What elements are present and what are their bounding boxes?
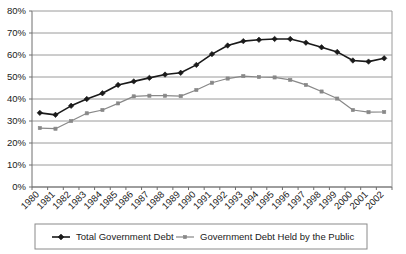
legend-label: Total Government Debt [76, 231, 174, 242]
data-point-marker [38, 126, 41, 129]
x-axis-tick-labels: 1980198119821983198419851986198719881989… [19, 189, 386, 212]
y-axis-tick-label: 80% [7, 5, 27, 16]
data-point-marker [195, 88, 198, 91]
data-point-marker [289, 78, 292, 81]
data-point-marker [132, 95, 135, 98]
data-point-marker [85, 112, 88, 115]
data-point-marker [183, 235, 186, 238]
data-point-marker [273, 76, 276, 79]
chart-canvas: 0%10%20%30%40%50%60%70%80% 1980198119821… [0, 0, 406, 254]
data-point-marker [351, 108, 354, 111]
data-point-marker [320, 90, 323, 93]
y-axis-tick-label: 70% [7, 27, 27, 38]
y-axis-tick-label: 50% [7, 71, 27, 82]
debt-line-chart: 0%10%20%30%40%50%60%70%80% 1980198119821… [0, 0, 406, 254]
x-axis-tick-label: 2002 [363, 189, 386, 212]
data-point-marker [70, 119, 73, 122]
data-point-marker [116, 102, 119, 105]
data-point-marker [58, 234, 64, 240]
legend-item-total-government-debt[interactable]: Total Government Debt [52, 231, 174, 242]
y-axis-tick-label: 60% [7, 49, 27, 60]
data-point-marker [257, 75, 260, 78]
data-point-marker [101, 108, 104, 111]
data-point-marker [163, 94, 166, 97]
legend-item-government-debt-held-by-the-public[interactable]: Government Debt Held by the Public [176, 231, 354, 242]
data-point-marker [179, 95, 182, 98]
y-axis-tick-labels: 0%10%20%30%40%50%60%70%80% [7, 5, 27, 192]
y-axis-tick-label: 40% [7, 93, 27, 104]
data-point-marker [226, 77, 229, 80]
data-point-marker [148, 94, 151, 97]
data-point-marker [242, 75, 245, 78]
data-point-marker [304, 83, 307, 86]
data-point-marker [210, 81, 213, 84]
y-axis-tick-label: 20% [7, 137, 27, 148]
y-axis-tick-label: 30% [7, 115, 27, 126]
data-point-marker [336, 97, 339, 100]
y-axis-tick-label: 10% [7, 159, 27, 170]
data-point-marker [54, 127, 57, 130]
chart-legend: Total Government DebtGovernment Debt Hel… [35, 224, 367, 249]
legend-label: Government Debt Held by the Public [200, 231, 354, 242]
y-axis-tick-label: 0% [12, 181, 26, 192]
data-point-marker [383, 110, 386, 113]
data-point-marker [367, 111, 370, 114]
